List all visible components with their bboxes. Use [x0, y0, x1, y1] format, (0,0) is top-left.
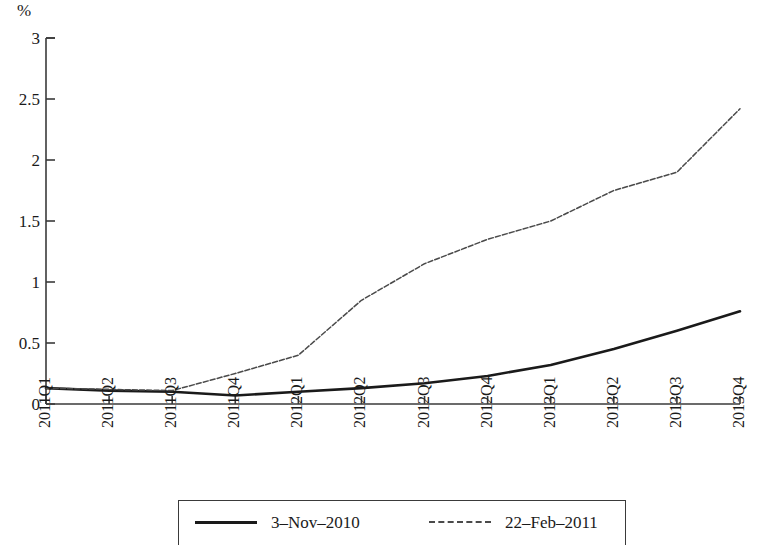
x-tick-label: 2012Q1	[289, 376, 305, 428]
x-tick-label: 2012Q4	[479, 376, 495, 428]
data-series-line-0	[46, 311, 740, 395]
x-tick-label: 2013Q3	[668, 376, 684, 428]
legend-label-series-0: 3–Nov–2010	[271, 514, 360, 531]
x-tick-label: 2013Q1	[542, 376, 558, 428]
data-series-line-1	[46, 109, 740, 391]
legend: 3–Nov–2010 22–Feb–2011	[178, 500, 626, 545]
legend-entry-series-0: 3–Nov–2010	[195, 512, 360, 532]
x-tick-label: 2012Q3	[416, 376, 432, 428]
x-tick-label: 2011Q4	[226, 377, 242, 428]
x-tick-label: 2011Q1	[37, 377, 53, 428]
x-tick-label: 2011Q3	[163, 377, 179, 428]
legend-line-sample-dashed	[429, 516, 491, 528]
legend-label-series-1: 22–Feb–2011	[505, 514, 598, 531]
x-tick-label: 2011Q2	[100, 377, 116, 428]
x-tick-label: 2013Q2	[605, 376, 621, 428]
x-tick-label: 2012Q2	[352, 376, 368, 428]
plot-area	[0, 0, 759, 545]
x-tick-label: 2013Q4	[731, 376, 747, 428]
legend-entry-series-1: 22–Feb–2011	[429, 512, 598, 532]
legend-line-sample-solid	[195, 516, 257, 528]
line-chart-figure: % 00.511.522.53 2011Q12011Q22011Q32011Q4…	[0, 0, 759, 545]
